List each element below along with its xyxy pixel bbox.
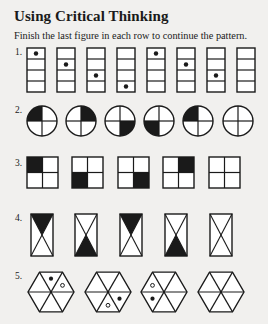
row-3-figure-3: [118, 157, 149, 188]
pattern-figures: [0, 0, 268, 324]
white-dot-icon: [61, 283, 65, 287]
row-2-figure-4: [144, 106, 174, 136]
row-1-figure-6: [177, 48, 195, 92]
row-3-figure-2: [72, 157, 103, 188]
dot-icon: [214, 73, 218, 77]
dot-icon: [154, 51, 158, 55]
black-dot-icon: [150, 297, 154, 301]
row-4-figure-2: [75, 214, 97, 256]
row-5-figure-4: [198, 272, 244, 312]
row-2-figure-1: [27, 106, 57, 136]
dot-icon: [94, 73, 98, 77]
black-dot-icon: [117, 297, 121, 301]
row-4-figure-4: [165, 214, 187, 256]
row-1-figure-4: [117, 48, 135, 92]
row-2-figure-5: [183, 106, 213, 136]
row-1-figure-7: [207, 48, 225, 92]
black-dot-icon: [49, 277, 53, 281]
row-1-figure-1: [27, 48, 45, 92]
row-1-figure-8: [237, 48, 255, 92]
row-2-figure-2: [66, 106, 96, 136]
row-2-figures: [27, 106, 253, 136]
row-1-figures: [27, 48, 255, 92]
row-3-figure-1: [27, 157, 58, 188]
row-4-figures: [31, 214, 232, 256]
row-1-figure-3: [87, 48, 105, 92]
row-1-figure-5: [147, 48, 165, 92]
row-5-figure-3: [141, 272, 187, 312]
white-dot-icon: [106, 303, 110, 307]
dot-icon: [124, 84, 128, 88]
row-5-figure-2: [85, 272, 131, 312]
row-3-figure-5: [209, 157, 240, 188]
row-5-figure-1: [28, 272, 74, 312]
dot-icon: [184, 62, 188, 66]
row-4-figure-1: [31, 214, 53, 256]
row-2-figure-3: [105, 106, 135, 136]
dot-icon: [34, 51, 38, 55]
row-3-figure-4: [163, 157, 194, 188]
row-4-figure-5: [210, 214, 232, 256]
row-1-figure-2: [57, 48, 75, 92]
row-4-figure-3: [120, 214, 142, 256]
row-3-figures: [27, 157, 240, 188]
white-dot-icon: [151, 283, 155, 287]
row-5-figures: [28, 272, 244, 312]
row-2-figure-6: [223, 106, 253, 136]
dot-icon: [64, 62, 68, 66]
